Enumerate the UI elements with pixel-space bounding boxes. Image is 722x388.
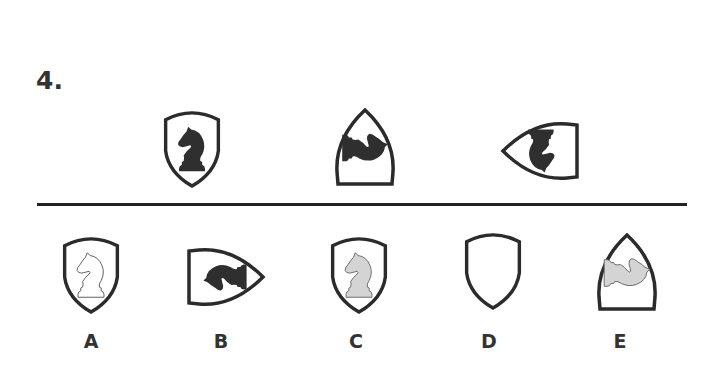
shield-knight-outline-icon (59, 234, 123, 316)
sequence-figure-2 (330, 108, 400, 188)
shield-knight-rotated-icon (184, 244, 266, 310)
shield-knight-rotated-icon (500, 118, 582, 184)
option-e-figure[interactable] (592, 233, 662, 313)
option-b-figure[interactable] (184, 244, 266, 310)
shield-knight-icon (160, 108, 224, 190)
sequence-figure-3 (500, 118, 582, 184)
option-c-label[interactable]: C (341, 330, 371, 352)
option-a-label[interactable]: A (76, 330, 106, 352)
sequence-figure-1 (160, 108, 224, 190)
shield-knight-gray-rotated-icon (592, 233, 662, 313)
option-c-figure[interactable] (327, 234, 391, 316)
question-number: 4. (36, 66, 63, 95)
option-d-label[interactable]: D (474, 330, 504, 352)
option-b-label[interactable]: B (206, 330, 236, 352)
option-e-label[interactable]: E (605, 330, 635, 352)
shield-knight-rotated-icon (330, 108, 400, 188)
option-a-figure[interactable] (59, 234, 123, 316)
empty-shield-icon (461, 230, 525, 312)
shield-knight-gray-icon (327, 234, 391, 316)
divider-line (37, 203, 687, 206)
option-d-figure[interactable] (461, 230, 525, 312)
